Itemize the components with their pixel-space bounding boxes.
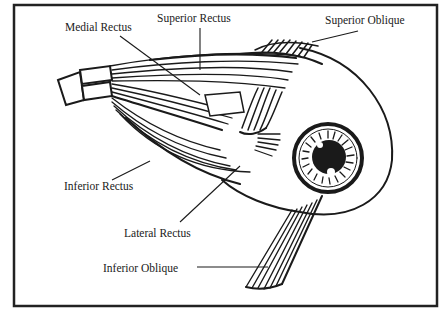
leader-medial-rectus — [120, 36, 200, 95]
diagram-frame — [14, 5, 437, 306]
superior-rectus-fibers — [110, 53, 300, 88]
label-superior-oblique: Superior Oblique — [325, 14, 405, 27]
label-inferior-oblique: Inferior Oblique — [103, 262, 178, 275]
eye-muscles-diagram: Medial Rectus Superior Rectus Superior O… — [0, 0, 444, 317]
eyeball — [222, 48, 392, 214]
label-inferior-rectus: Inferior Rectus — [64, 180, 134, 192]
lateral-insertion-fibers — [255, 134, 280, 156]
label-superior-rectus: Superior Rectus — [157, 12, 231, 25]
muscle-bundle — [58, 40, 322, 289]
superior-oblique-fibers — [240, 40, 322, 64]
label-medial-rectus: Medial Rectus — [65, 21, 132, 33]
leader-inferior-rectus — [112, 161, 150, 180]
superior-insertion-fan — [240, 88, 282, 134]
leader-superior-oblique — [312, 31, 358, 42]
label-lateral-rectus: Lateral Rectus — [124, 227, 191, 239]
